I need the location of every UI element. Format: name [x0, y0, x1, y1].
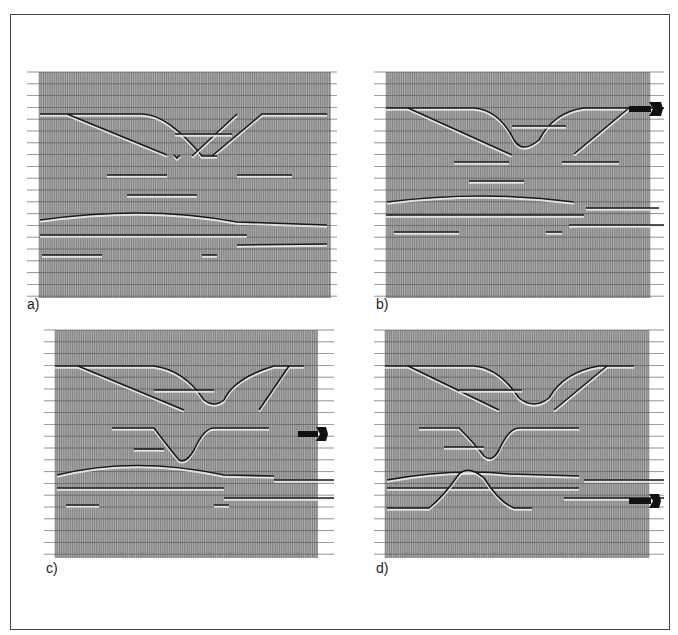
- arrow-marker-icon: [298, 426, 328, 442]
- panel-label-d: d): [376, 560, 388, 576]
- seismic-section-b: [374, 70, 664, 300]
- arrow-marker-icon: [629, 101, 663, 117]
- seismic-section-a: [27, 70, 337, 300]
- panel-label-a: a): [27, 296, 39, 312]
- panel-label-c: c): [46, 560, 58, 576]
- seismic-section-c: [44, 328, 334, 560]
- seismic-section-d: [374, 328, 664, 560]
- panel-label-b: b): [376, 296, 388, 312]
- arrow-marker-icon: [629, 493, 661, 509]
